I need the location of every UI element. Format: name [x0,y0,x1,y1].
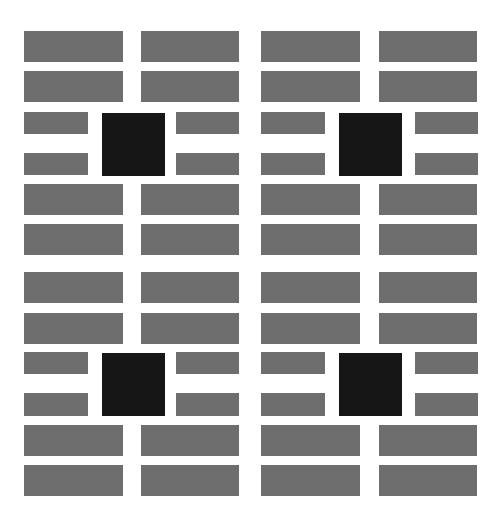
right-panel-long-bar [379,313,477,344]
left-panel-long-bar [24,71,123,102]
pattern-diagram [0,0,499,514]
left-panel-long-bar [141,313,239,344]
left-panel-long-bar [141,425,239,456]
right-panel-short-bar [261,393,325,416]
right-panel-long-bar [261,313,360,344]
right-panel-long-bar [261,184,360,215]
left-panel-black-square [102,353,165,416]
right-panel-short-bar [415,112,478,134]
right-panel-long-bar [261,272,360,303]
right-panel-long-bar [379,184,477,215]
right-panel-long-bar [379,71,477,102]
right-panel-long-bar [261,425,360,456]
left-panel-long-bar [141,31,239,62]
left-panel-long-bar [141,71,239,102]
left-panel-short-bar [24,112,88,134]
right-panel-short-bar [261,112,325,134]
left-panel-short-bar [24,352,88,374]
right-panel-black-square [339,353,402,416]
right-panel-long-bar [379,224,477,255]
left-panel-short-bar [176,393,239,416]
left-panel-short-bar [176,153,239,175]
right-panel-long-bar [379,31,477,62]
left-panel-long-bar [141,465,239,496]
right-panel-short-bar [415,352,478,374]
left-panel-long-bar [24,465,123,496]
right-panel-long-bar [379,465,477,496]
right-panel-short-bar [415,393,478,416]
left-panel-long-bar [24,224,123,255]
left-panel-short-bar [176,352,239,374]
right-panel-short-bar [415,153,478,175]
left-panel-black-square [102,113,165,176]
right-panel-black-square [339,113,402,176]
right-panel-long-bar [379,425,477,456]
left-panel-long-bar [24,184,123,215]
right-panel-short-bar [261,352,325,374]
left-panel-long-bar [141,224,239,255]
right-panel-long-bar [261,71,360,102]
right-panel-short-bar [261,153,325,175]
left-panel-short-bar [24,153,88,175]
left-panel-long-bar [141,184,239,215]
left-panel-long-bar [24,272,123,303]
left-panel-long-bar [141,272,239,303]
left-panel-long-bar [24,31,123,62]
left-panel-short-bar [24,393,88,416]
right-panel-long-bar [261,465,360,496]
right-panel-long-bar [379,272,477,303]
left-panel-long-bar [24,313,123,344]
right-panel-long-bar [261,31,360,62]
left-panel-short-bar [176,112,239,134]
right-panel-long-bar [261,224,360,255]
left-panel-long-bar [24,425,123,456]
